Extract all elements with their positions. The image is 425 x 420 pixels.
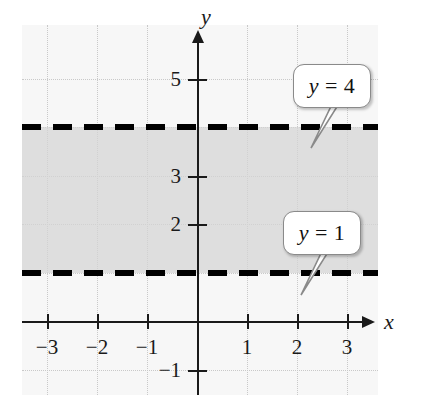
y-tick-label: −1: [159, 359, 181, 380]
y-tick-mark: [188, 176, 207, 178]
y-tick-label: 2: [171, 214, 182, 235]
x-tick-mark: [347, 314, 349, 329]
y-tick-label: 3: [171, 165, 182, 186]
x-tick-label: 2: [292, 337, 303, 358]
callout-y4-variable: y: [309, 73, 319, 98]
math-graph-figure: −3−2−1123532−1 x y y = 4 y = 1: [0, 0, 425, 420]
x-axis-arrow-icon: [362, 316, 375, 328]
callout-y1-rest: = 1: [309, 220, 345, 245]
y-tick-mark: [188, 224, 207, 226]
y-axis: [197, 42, 199, 395]
y-tick-label: 5: [171, 68, 182, 89]
y-axis-arrow-icon: [192, 30, 204, 43]
x-tick-mark: [147, 314, 149, 329]
callout-y1-variable: y: [299, 220, 309, 245]
y-tick-mark: [188, 370, 207, 372]
y-axis-label: y: [201, 6, 211, 28]
x-tick-mark: [47, 314, 49, 329]
x-axis-label: x: [384, 311, 394, 333]
x-tick-label: −3: [36, 337, 58, 358]
x-tick-label: 3: [342, 337, 353, 358]
callout-y-equals-4-text: y = 4: [309, 73, 356, 99]
x-tick-label: −2: [86, 337, 108, 358]
callout-y-equals-1-text: y = 1: [299, 220, 346, 246]
x-tick-label: −1: [136, 337, 158, 358]
callout-y-equals-1[interactable]: y = 1: [283, 211, 361, 255]
callout-y4-rest: = 4: [319, 73, 355, 98]
y-tick-mark: [188, 79, 207, 81]
x-tick-label: 1: [242, 337, 253, 358]
x-tick-mark: [297, 314, 299, 329]
x-tick-mark: [97, 314, 99, 329]
callout-y-equals-4[interactable]: y = 4: [293, 64, 371, 108]
x-axis: [22, 321, 362, 323]
x-tick-mark: [247, 314, 249, 329]
